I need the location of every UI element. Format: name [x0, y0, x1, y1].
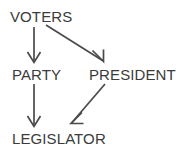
edge-president-legislator-arrowhead-icon — [71, 113, 84, 124]
node-party-label: PARTY — [12, 66, 61, 83]
flow-diagram: VOTERS PARTY PRESIDENT LEGISLATOR — [0, 0, 176, 150]
edge-president-legislator — [71, 84, 105, 124]
edge-voters-president-line — [46, 25, 103, 61]
node-president-label: PRESIDENT — [89, 66, 176, 83]
node-legislator-label: LEGISLATOR — [12, 130, 106, 147]
edge-voters-party — [28, 27, 41, 63]
node-voters-label: VOTERS — [10, 8, 72, 25]
diagram-canvas: VOTERS PARTY PRESIDENT LEGISLATOR — [0, 0, 176, 150]
edge-voters-president — [46, 25, 104, 62]
edge-party-legislator — [28, 84, 41, 127]
